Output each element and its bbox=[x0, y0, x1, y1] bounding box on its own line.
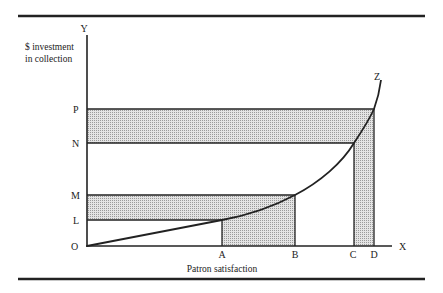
origin-label: O bbox=[71, 241, 78, 252]
y-axis-title-line2: in collection bbox=[25, 54, 72, 64]
y-axis-label: Y bbox=[80, 23, 87, 34]
y-tick-L: L bbox=[73, 215, 79, 226]
x-tick-D: D bbox=[370, 249, 377, 260]
y-tick-M: M bbox=[71, 190, 80, 201]
x-axis-title: Patron satisfaction bbox=[187, 264, 258, 274]
y-tick-N: N bbox=[72, 138, 79, 149]
investment-satisfaction-diagram: Y X Z O L M N P A B C D $ investment in … bbox=[0, 0, 443, 293]
shaded-band-A-B bbox=[222, 220, 295, 246]
x-tick-C: C bbox=[350, 249, 357, 260]
shaded-band-N-P bbox=[87, 109, 374, 143]
x-tick-A: A bbox=[218, 249, 226, 260]
y-tick-P: P bbox=[73, 104, 79, 115]
shaded-band-C-D bbox=[354, 143, 374, 246]
y-axis-title-line1: $ investment bbox=[25, 42, 74, 52]
shaded-band-L-M bbox=[87, 195, 295, 220]
curve-label-z: Z bbox=[374, 71, 380, 82]
x-tick-B: B bbox=[292, 249, 299, 260]
x-axis-label: X bbox=[399, 241, 407, 252]
